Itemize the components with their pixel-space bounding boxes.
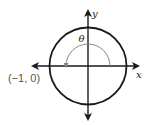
x-axis-label: x — [136, 69, 142, 80]
angle-theta-label: θ — [79, 33, 85, 44]
y-axis-label: y — [91, 8, 98, 19]
unit-circle-diagram: θ y x (−1, 0) — [0, 0, 150, 125]
point-label: (−1, 0) — [8, 72, 40, 84]
